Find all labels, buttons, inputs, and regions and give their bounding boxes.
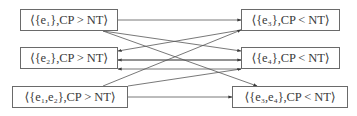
node-label: ⟨{e₁},CP > NT⟩: [30, 12, 108, 28]
node-e3-cp-lt-nt: ⟨{e₃},CP < NT⟩: [241, 9, 340, 31]
node-e2-cp-gt-nt: ⟨{e₂},CP > NT⟩: [20, 47, 118, 69]
edge-l3-to-r2: [128, 69, 241, 86]
node-label: ⟨{e₃,e₄},CP < NT⟩: [245, 89, 336, 105]
edge-l1-to-r3: [103, 31, 257, 86]
node-e1-cp-gt-nt: ⟨{e₁},CP > NT⟩: [20, 9, 118, 31]
node-e3-e4-cp-lt-nt: ⟨{e₃,e₄},CP < NT⟩: [232, 86, 348, 108]
edge-l1-to-r2: [103, 31, 241, 51]
diagram-canvas: ⟨{e₁},CP > NT⟩ ⟨{e₂},CP > NT⟩ ⟨{e₁,e₂},C…: [0, 0, 357, 116]
node-label: ⟨{e₁,e₂},CP > NT⟩: [25, 89, 116, 105]
node-e4-cp-lt-nt: ⟨{e₄},CP < NT⟩: [241, 47, 340, 69]
node-label: ⟨{e₄},CP < NT⟩: [251, 50, 329, 66]
edge-r1-to-l2: [118, 30, 241, 51]
node-e1-e2-cp-gt-nt: ⟨{e₁,e₂},CP > NT⟩: [12, 86, 128, 108]
node-label: ⟨{e₃},CP < NT⟩: [251, 12, 329, 28]
node-label: ⟨{e₂},CP > NT⟩: [30, 50, 108, 66]
